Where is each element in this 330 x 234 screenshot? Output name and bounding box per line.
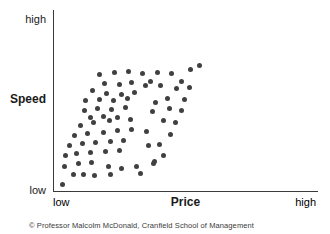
scatter-dot (144, 129, 149, 134)
scatter-dot (97, 72, 102, 77)
scatter-dot (129, 80, 134, 85)
scatter-dot (115, 128, 120, 133)
scatter-dot (108, 139, 113, 144)
scatter-dot (146, 143, 151, 148)
scatter-dot (78, 123, 83, 128)
scatter-dot (161, 118, 166, 123)
scatter-dot (81, 172, 86, 177)
scatter-dot (129, 127, 134, 132)
scatter-dot (182, 97, 187, 102)
scatter-dot (167, 106, 172, 111)
scatter-dot (179, 79, 184, 84)
y-axis-tick-high: high (0, 13, 46, 25)
y-axis-title: Speed (0, 93, 46, 106)
y-axis-tick-low: low (0, 184, 46, 196)
scatter-dot (104, 91, 109, 96)
scatter-dot (109, 107, 114, 112)
scatter-dot (101, 130, 106, 135)
scatter-dot (157, 142, 162, 147)
scatter-dot (148, 79, 153, 84)
scatter-dot (67, 143, 72, 148)
scatter-dot (90, 88, 95, 93)
scatter-chart-figure: high Speed low low Price high © Professo… (0, 0, 330, 234)
scatter-dot (152, 159, 157, 164)
scatter-dot (112, 70, 117, 75)
scatter-dot (63, 153, 68, 158)
scatter-dot (103, 149, 108, 154)
x-axis-labels: low Price high (53, 196, 318, 210)
plot-area (53, 10, 318, 192)
scatter-dot (108, 172, 113, 177)
scatter-dot (111, 98, 116, 103)
copyright-attribution: © Professor Malcolm McDonald, Cranfield … (29, 221, 254, 230)
scatter-dot (169, 71, 174, 76)
scatter-dot (74, 151, 79, 156)
scatter-dot (80, 141, 85, 146)
scatter-dot (173, 120, 178, 125)
scatter-dot (168, 132, 173, 137)
scatter-dot (188, 67, 193, 72)
scatter-dot (60, 182, 65, 187)
scatter-dot (85, 131, 90, 136)
scatter-dot (187, 85, 192, 90)
scatter-dot (140, 71, 145, 76)
scatter-dot (83, 98, 88, 103)
scatter-dot (125, 96, 130, 101)
scatter-dot (119, 166, 124, 171)
scatter-dot (89, 160, 94, 165)
scatter-dot (101, 114, 106, 119)
scatter-dot (153, 100, 158, 105)
scatter-dot (197, 63, 202, 68)
scatter-dot (128, 117, 133, 122)
scatter-dot (119, 92, 124, 97)
scatter-dot (165, 96, 170, 101)
scatter-dot (92, 173, 97, 178)
scatter-dot (102, 81, 107, 86)
scatter-dot (97, 97, 102, 102)
scatter-dot (143, 83, 148, 88)
scatter-dot (155, 70, 160, 75)
scatter-dot (82, 108, 87, 113)
scatter-dot (93, 140, 98, 145)
scatter-dot (95, 106, 100, 111)
scatter-dot (72, 133, 77, 138)
scatter-dot (62, 164, 67, 169)
scatter-dot (161, 153, 166, 158)
scatter-dot (150, 109, 155, 114)
scatter-dot (88, 150, 93, 155)
scatter-dot (107, 118, 112, 123)
scatter-dot (115, 115, 120, 120)
scatter-dot (117, 82, 122, 87)
scatter-dot (117, 148, 122, 153)
scatter-dot (106, 164, 111, 169)
scatter-dot (158, 83, 163, 88)
scatter-dot (76, 161, 81, 166)
scatter-dot (134, 164, 139, 169)
scatter-dot (132, 90, 137, 95)
scatter-dot (179, 108, 184, 113)
x-axis-title: Price (53, 196, 318, 209)
scatter-dot (121, 138, 126, 143)
scatter-dot (138, 171, 143, 176)
scatter-dot (91, 120, 96, 125)
scatter-dot (174, 86, 179, 91)
x-axis-tick-high: high (295, 196, 316, 208)
scatter-dot (126, 69, 131, 74)
scatter-dot (123, 105, 128, 110)
scatter-dot (71, 172, 76, 177)
